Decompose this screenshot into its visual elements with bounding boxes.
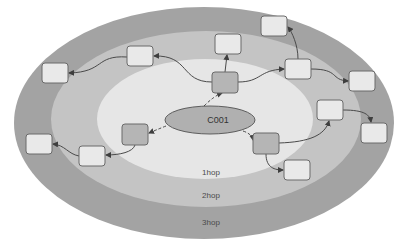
center-node-label: C001 [207, 115, 229, 125]
node-hop1-right[interactable] [253, 133, 279, 154]
node-hop1-top[interactable] [212, 72, 238, 93]
layer-label-2hop: 2hop [202, 191, 220, 200]
node-hop3-right-lower[interactable] [361, 123, 387, 143]
node-hop3-right-upper[interactable] [349, 71, 375, 91]
node-hop2-lower-right[interactable] [284, 160, 310, 180]
node-hop2-right[interactable] [317, 100, 343, 120]
hop-diagram: 1hop 2hop 3hop C001 [0, 0, 407, 244]
node-hop2-upper-left[interactable] [127, 46, 153, 66]
node-hop1-left[interactable] [122, 124, 148, 145]
layer-label-3hop: 3hop [202, 218, 220, 227]
node-hop3-left[interactable] [42, 63, 68, 83]
node-hop2-top[interactable] [215, 34, 241, 54]
layer-label-1hop: 1hop [202, 168, 220, 177]
node-hop3-top[interactable] [261, 16, 287, 36]
node-hop2-lower-left[interactable] [79, 146, 105, 166]
node-hop3-lower-left[interactable] [26, 134, 52, 154]
node-hop2-upper-right[interactable] [285, 59, 311, 79]
